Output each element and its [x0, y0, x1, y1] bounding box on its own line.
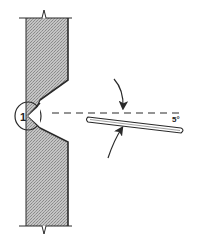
top-break-line	[19, 10, 72, 18]
diagram-canvas: 1 5°	[0, 0, 197, 244]
bottom-break-line	[19, 226, 72, 234]
angle-label: 5°	[172, 115, 180, 124]
electrode-rod	[87, 117, 184, 133]
callout-number: 1	[20, 111, 26, 123]
angle-arrow-top-icon	[114, 79, 123, 108]
callout-circle: 1	[15, 102, 41, 130]
angle-arrow-bottom-icon	[108, 128, 122, 158]
